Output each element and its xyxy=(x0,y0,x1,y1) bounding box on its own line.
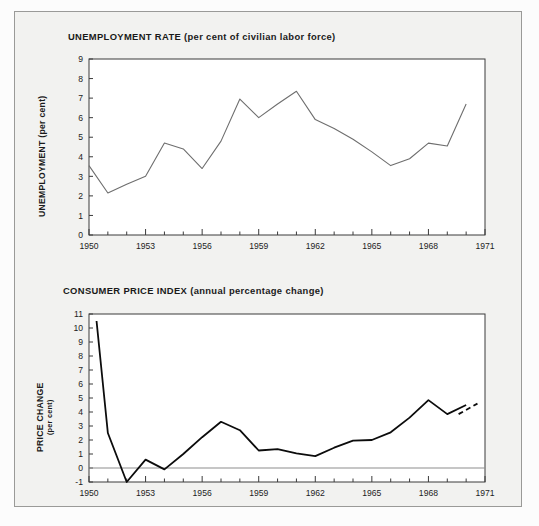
x-tick-label: 1965 xyxy=(362,488,381,498)
y-tick-label: 6 xyxy=(78,379,83,389)
unemployment-title-sub: (per cent of civilian labor force) xyxy=(184,31,336,42)
y-tick-label: 5 xyxy=(78,393,83,403)
y-tick-label: 2 xyxy=(78,191,83,201)
y-tick-label: 11 xyxy=(74,309,83,319)
y-tick-label: 4 xyxy=(78,152,83,162)
x-tick-label: 1968 xyxy=(419,241,438,251)
plot-area-frame xyxy=(89,314,485,482)
y-tick-label: 3 xyxy=(78,172,83,182)
cpi-chart: CONSUMER PRICE INDEX (annual percentage … xyxy=(15,267,521,508)
x-tick-label: 1950 xyxy=(79,241,98,251)
x-tick-label: 1953 xyxy=(136,241,155,251)
y-tick-label: 1 xyxy=(78,211,83,221)
cpi-title-sub: (annual percentage change) xyxy=(190,285,324,296)
y-tick-label: 4 xyxy=(78,407,83,417)
y-tick-label: 5 xyxy=(78,132,83,142)
y-tick-label: -1 xyxy=(75,477,83,487)
unemployment-title-main: UNEMPLOYMENT RATE xyxy=(68,31,181,42)
y-tick-label: 8 xyxy=(78,74,83,84)
x-tick-label: 1962 xyxy=(306,488,325,498)
unemployment-chart-title: UNEMPLOYMENT RATE (per cent of civilian … xyxy=(68,31,336,42)
cpi-y-axis-title-unit: (per cent) xyxy=(45,383,55,453)
x-tick-label: 1956 xyxy=(193,488,212,498)
x-tick-label: 1959 xyxy=(249,488,268,498)
y-tick-label: 7 xyxy=(78,365,83,375)
x-tick-label: 1959 xyxy=(249,241,268,251)
y-tick-label: 1 xyxy=(78,449,83,459)
y-tick-label: 8 xyxy=(78,351,83,361)
cpi-chart-title: CONSUMER PRICE INDEX (annual percentage … xyxy=(63,285,324,296)
cpi-plot-svg: 11109876543210-1195019531956195919621965… xyxy=(15,267,523,508)
y-tick-label: 0 xyxy=(78,230,83,240)
y-tick-label: 7 xyxy=(78,93,83,103)
unemployment-chart: UNEMPLOYMENT RATE (per cent of civilian … xyxy=(15,12,521,267)
x-tick-label: 1968 xyxy=(419,488,438,498)
y-tick-label: 10 xyxy=(73,323,83,333)
y-tick-label: 6 xyxy=(78,113,83,123)
y-tick-label: 9 xyxy=(78,337,83,347)
y-tick-label: 3 xyxy=(78,421,83,431)
page-canvas: UNEMPLOYMENT RATE (per cent of civilian … xyxy=(0,0,539,526)
unemployment-plot-svg: 9876543210195019531956195919621965196819… xyxy=(15,12,523,267)
x-tick-label: 1971 xyxy=(475,241,494,251)
y-tick-label: 2 xyxy=(78,435,83,445)
x-tick-label: 1971 xyxy=(475,488,494,498)
figure-panel: UNEMPLOYMENT RATE (per cent of civilian … xyxy=(14,11,522,507)
x-tick-label: 1950 xyxy=(79,488,98,498)
x-tick-label: 1956 xyxy=(193,241,212,251)
x-tick-label: 1965 xyxy=(362,241,381,251)
y-tick-label: 9 xyxy=(78,54,83,64)
plot-area-frame xyxy=(89,59,485,235)
unemployment-y-axis-title: UNEMPLOYMENT (per cent) xyxy=(37,96,47,218)
y-tick-label: 0 xyxy=(78,463,83,473)
cpi-y-axis-title: PRICE CHANGE (per cent) xyxy=(35,383,55,453)
x-tick-label: 1962 xyxy=(306,241,325,251)
x-tick-label: 1953 xyxy=(136,488,155,498)
cpi-title-main: CONSUMER PRICE INDEX xyxy=(63,285,187,296)
cpi-y-axis-title-main: PRICE CHANGE xyxy=(35,383,45,453)
